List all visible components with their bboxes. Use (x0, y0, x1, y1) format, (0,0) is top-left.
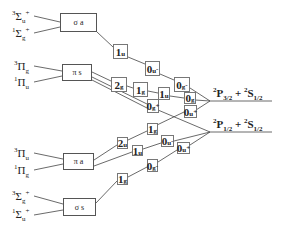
box-pi-a: π a (63, 153, 94, 170)
state-0u-plus-lower: 0u+ (177, 142, 190, 154)
term-3pi-g: 3Πg (14, 60, 29, 75)
state-1g-upper: 1g (133, 82, 148, 97)
term-1sigma-g-plus: 1Σg+ (12, 27, 29, 42)
term-1pi-g: 1Πg (14, 164, 29, 179)
term-1sigma-u-plus: 1Σu+ (12, 208, 29, 223)
state-2g: 2g (111, 77, 127, 92)
box-sigma-a: σ a (60, 13, 97, 32)
state-1u-lower: 1u (132, 145, 143, 156)
state-1g-lower: 1g (147, 123, 158, 135)
state-0g-plus: 0g+ (147, 99, 159, 113)
state-0g-minus-lower: 0g- (147, 159, 158, 172)
asymptote-p3-2-s1-2: 2P3/2 + 2S1/2 (213, 86, 263, 102)
state-0g-minus-upper: 0g- (174, 77, 190, 92)
asymptote-p1-2-s1-2: 2P1/2 + 2S1/2 (213, 117, 263, 133)
connector-lines (0, 0, 283, 232)
box-pi-s: π s (62, 64, 92, 81)
term-3pi-u: 3Πu (14, 147, 29, 162)
state-0g: 0g (184, 92, 196, 104)
state-1g-bottom: 1g (117, 173, 128, 185)
term-3sigma-u-plus: 3Σu+ (12, 10, 29, 25)
correlation-diagram: 3Σu+ 1Σg+ 3Πg 1Πu 3Πu 1Πg 3Σg+ 1Σu+ σ a … (0, 0, 283, 232)
state-2u: 2u (117, 137, 128, 149)
state-0u-plus-upper: 0u+ (184, 105, 197, 118)
box-sigma-s: σ s (63, 198, 96, 216)
term-3sigma-g-plus: 3Σg+ (12, 190, 29, 205)
state-0u-minus-lower: 0u- (161, 135, 174, 147)
state-1u-middle: 1u (158, 87, 170, 100)
term-1pi-u: 1Πu (14, 76, 29, 91)
state-1u: 1u (113, 44, 128, 59)
state-0u-minus: 0u- (145, 61, 160, 76)
